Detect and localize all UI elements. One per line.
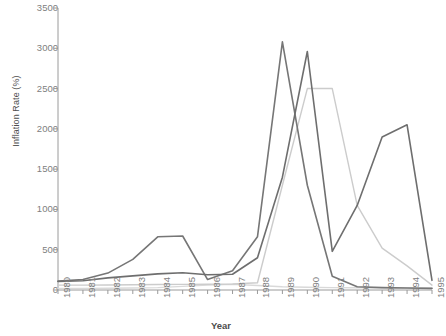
x-tick-label: 1993	[386, 277, 396, 298]
x-tick-label: 1986	[212, 277, 222, 298]
x-tick-label: 1990	[311, 277, 321, 298]
x-tick-label: 1985	[187, 277, 197, 298]
x-tick-label: 1982	[112, 277, 122, 298]
x-tick-label: 1988	[261, 277, 271, 298]
x-tick-label: 1989	[286, 277, 296, 298]
x-tick-label: 1981	[87, 277, 97, 298]
x-tick-label: 1991	[336, 277, 346, 298]
x-tick-label: 1994	[411, 277, 421, 298]
x-axis-title: Year	[0, 320, 442, 331]
x-tick-label: 1995	[436, 277, 446, 298]
x-tick-label: 1980	[62, 277, 72, 298]
x-tick-label: 1983	[137, 277, 147, 298]
x-tick-label: 1987	[237, 277, 247, 298]
x-tick-label: 1984	[162, 277, 172, 298]
x-tick-label: 1992	[361, 277, 371, 298]
